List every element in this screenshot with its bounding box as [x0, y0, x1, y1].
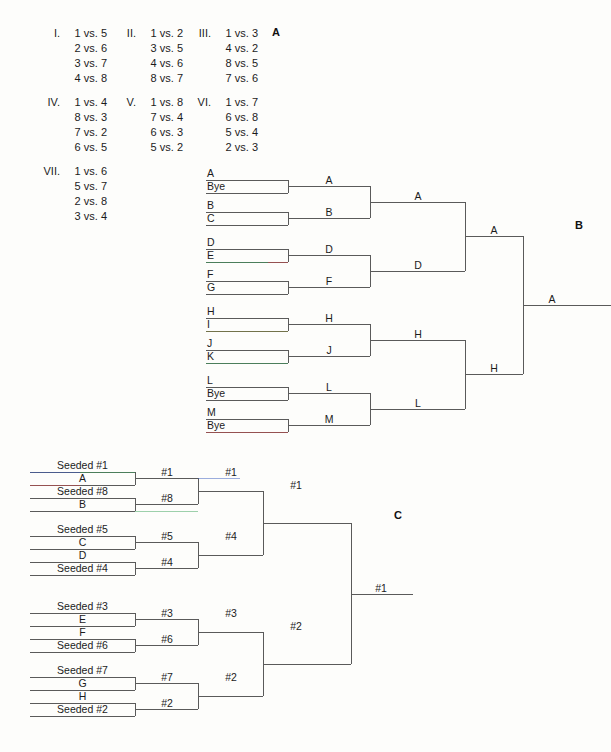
bracket-c-winner-r2: #4 [140, 556, 194, 568]
bracket-c-seed: C [30, 537, 135, 548]
bracket-c-winner-r2: #3 [140, 607, 194, 619]
bracket-c-seed: Seeded #5 [30, 524, 135, 535]
bracket-c-seed: Seeded #1 [30, 460, 135, 471]
bracket-c-seed: Seeded #7 [30, 665, 135, 676]
bracket-c-winner-r3: #2 [204, 671, 258, 683]
bracket-c-seed: Seeded #4 [30, 563, 135, 574]
bracket-c-winner-r2: #1 [140, 466, 194, 478]
bracket-c-winner-r3: #1 [204, 466, 258, 478]
bracket-c-seed: Seeded #6 [30, 640, 135, 651]
bracket-c-seed: D [30, 550, 135, 561]
bracket-c-winner-r2: #8 [140, 492, 194, 504]
bracket-c-seed: Seeded #2 [30, 704, 135, 715]
bracket-c-winner-r2: #5 [140, 530, 194, 542]
bracket-c-champion: #1 [356, 582, 406, 594]
bracket-c-seed: B [30, 499, 135, 510]
bracket-c-winner-r2: #2 [140, 697, 194, 709]
bracket-c-winner-r2: #6 [140, 633, 194, 645]
bracket-c-winner-r3: #4 [204, 530, 258, 542]
bracket-c-winner-r4: #1 [269, 479, 323, 491]
bracket-c-winner-r2: #7 [140, 671, 194, 683]
bracket-c-seed: A [30, 473, 135, 484]
bracket-c-seed: H [30, 691, 135, 702]
bracket-c-seed: Seeded #3 [30, 601, 135, 612]
bracket-c-seed: G [30, 678, 135, 689]
bracket-c-seed: F [30, 627, 135, 638]
bracket-c-winner-r3: #3 [204, 607, 258, 619]
diagram-canvas: I.1 vs. 5 2 vs. 6 3 vs. 7 4 vs. 8 II.1 v… [0, 0, 611, 752]
bracket-c-winner-r4: #2 [269, 620, 323, 632]
bracket-c-seed: Seeded #8 [30, 486, 135, 497]
bracket-c-seed: E [30, 614, 135, 625]
